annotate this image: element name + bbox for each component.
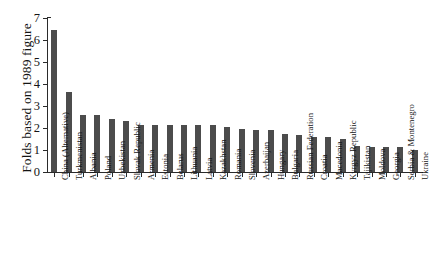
y-tick-label: 4 — [26, 78, 40, 91]
x-tick-label: Kyrgyz Republic — [347, 30, 359, 180]
x-tick-label: Bulgaria — [289, 30, 301, 180]
x-tick-label: Albania — [87, 30, 99, 180]
x-tick-label: Estonia — [159, 30, 171, 180]
x-tick-label: Armenia — [145, 30, 157, 180]
x-tick-label: Poland — [102, 30, 114, 180]
x-tick-label: Macedonia — [333, 30, 345, 180]
y-tick-label: 3 — [26, 100, 40, 113]
x-tick-label: Ukraine — [419, 30, 431, 180]
x-tick-label: Lithuania — [188, 30, 200, 180]
y-tick-label: 2 — [26, 122, 40, 135]
x-tick-label: Serbia & Montenegro — [405, 30, 417, 180]
x-tick-label: Latvia — [203, 30, 215, 180]
x-tick-label: Azerbaijan — [260, 30, 272, 180]
x-tick-label: Turkmenistan — [73, 30, 85, 180]
x-tick-label: Croatia — [318, 30, 330, 180]
y-tick-label: 5 — [26, 56, 40, 69]
x-tick-label: Slovak Republic — [131, 30, 143, 180]
y-tick-label: 1 — [26, 144, 40, 157]
x-tick-label: Belarus — [174, 30, 186, 180]
x-tick-label: Hungary — [275, 30, 287, 180]
y-tick-mark — [43, 172, 48, 173]
x-tick-label: Moldova — [376, 30, 388, 180]
x-tick-label: Tajikistan — [361, 30, 373, 180]
x-tick-label: Kazakhstan — [217, 30, 229, 180]
x-tick-mark — [54, 173, 55, 177]
x-tick-label: Georgia — [390, 30, 402, 180]
x-tick-label: Slovenia — [246, 30, 258, 180]
x-tick-label: China (Alternative) — [59, 30, 71, 180]
y-tick-label: 7 — [26, 12, 40, 25]
x-tick-label: Uzbekistan — [116, 30, 128, 180]
y-tick-label: 6 — [26, 34, 40, 47]
bar — [51, 30, 57, 172]
x-tick-label: Romania — [232, 30, 244, 180]
y-tick-label: 0 — [26, 166, 40, 179]
x-tick-label: Russian Federation — [304, 30, 316, 180]
